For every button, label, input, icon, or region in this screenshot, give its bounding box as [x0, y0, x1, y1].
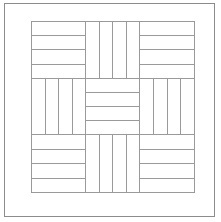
pattern-block-bottom-right	[140, 135, 194, 192]
strip	[112, 135, 126, 192]
strip	[180, 79, 194, 135]
strip	[153, 79, 167, 135]
strip	[140, 178, 194, 192]
strip	[86, 106, 139, 120]
strip	[140, 149, 194, 163]
strip	[32, 149, 85, 163]
strip	[140, 163, 194, 177]
strip	[32, 163, 85, 177]
strip	[167, 79, 181, 135]
strip	[140, 135, 194, 148]
strip	[126, 135, 140, 192]
pattern-block-top-center	[86, 22, 140, 79]
pattern-block-bottom-center	[86, 135, 140, 192]
strip	[126, 22, 140, 78]
pattern-block-top-left	[32, 22, 86, 79]
strip	[140, 22, 194, 35]
pattern-block-middle-right	[140, 79, 194, 136]
strip	[99, 22, 113, 78]
strip	[86, 135, 99, 192]
strip	[140, 35, 194, 49]
strip	[86, 92, 139, 106]
strip	[99, 135, 113, 192]
pattern-block-middle-center	[86, 79, 140, 136]
strip	[32, 22, 85, 35]
pattern-grid	[31, 21, 195, 193]
strip	[140, 49, 194, 63]
strip	[112, 22, 126, 78]
strip	[86, 22, 99, 78]
pattern-block-bottom-left	[32, 135, 86, 192]
pattern-block-middle-left	[32, 79, 86, 136]
strip	[45, 79, 59, 135]
strip	[32, 49, 85, 63]
strip	[32, 64, 85, 78]
strip	[140, 79, 153, 135]
strip	[32, 135, 85, 148]
strip	[58, 79, 72, 135]
strip	[32, 79, 45, 135]
strip	[32, 178, 85, 192]
strip	[72, 79, 86, 135]
strip	[86, 120, 139, 134]
strip	[140, 64, 194, 78]
figure-canvas	[0, 0, 221, 222]
pattern-block-top-right	[140, 22, 194, 79]
strip	[32, 35, 85, 49]
strip	[86, 79, 139, 92]
